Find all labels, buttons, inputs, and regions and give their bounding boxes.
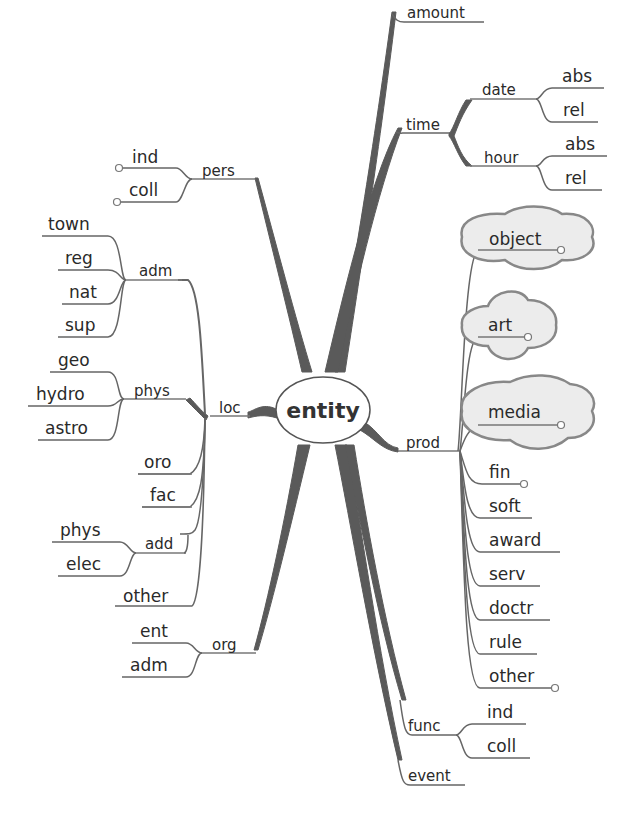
node-event[interactable]: event bbox=[398, 760, 465, 785]
label-pers-coll: coll bbox=[129, 180, 158, 200]
label-func-ind[interactable]: ind bbox=[487, 702, 513, 722]
label-time-hour: hour bbox=[484, 149, 519, 167]
label-loc-other[interactable]: other bbox=[123, 586, 168, 606]
label-prod-art: art bbox=[488, 315, 512, 335]
label-prod-soft[interactable]: soft bbox=[489, 496, 521, 516]
collapsed-indicator-icon[interactable] bbox=[558, 422, 565, 429]
label-prod-object: object bbox=[489, 229, 542, 249]
node-loc-adm[interactable]: adm bbox=[42, 236, 182, 337]
label-date-rel[interactable]: rel bbox=[563, 100, 585, 120]
label-add-elec[interactable]: elec bbox=[66, 554, 101, 574]
node-loc[interactable]: loc bbox=[115, 280, 250, 606]
label-event: event bbox=[408, 767, 451, 785]
label-func: func bbox=[408, 717, 441, 735]
label-loc-phys: phys bbox=[134, 382, 170, 400]
label-prod-award[interactable]: award bbox=[489, 530, 541, 550]
label-hour-abs[interactable]: abs bbox=[565, 134, 595, 154]
label-prod-fin: fin bbox=[489, 462, 510, 482]
label-pers: pers bbox=[202, 162, 235, 180]
label-date-abs[interactable]: abs bbox=[562, 66, 592, 86]
label-prod-serv[interactable]: serv bbox=[489, 564, 525, 584]
label-pers-ind: ind bbox=[132, 147, 158, 167]
root-node[interactable]: entity bbox=[276, 377, 370, 443]
label-org-ent[interactable]: ent bbox=[140, 621, 168, 641]
label-prod-media: media bbox=[488, 402, 541, 422]
label-loc-adm: adm bbox=[139, 262, 172, 280]
label-org-adm[interactable]: adm bbox=[130, 655, 168, 675]
collapsed-indicator-icon[interactable] bbox=[558, 247, 565, 254]
label-time: time bbox=[406, 116, 440, 134]
node-prod-object[interactable]: object bbox=[462, 207, 594, 270]
collapsed-indicator-icon[interactable] bbox=[552, 685, 559, 692]
label-adm-sup[interactable]: sup bbox=[65, 315, 95, 335]
node-prod-media[interactable]: media bbox=[462, 375, 594, 448]
node-amount[interactable]: amount bbox=[392, 4, 484, 22]
label-add-phys[interactable]: phys bbox=[60, 520, 101, 540]
collapsed-indicator-icon[interactable] bbox=[114, 199, 121, 206]
label-amount: amount bbox=[407, 4, 465, 22]
label-phys-astro[interactable]: astro bbox=[45, 418, 88, 438]
root-label: entity bbox=[286, 398, 360, 423]
collapsed-indicator-icon[interactable] bbox=[525, 334, 532, 341]
label-adm-reg[interactable]: reg bbox=[65, 248, 93, 268]
label-loc: loc bbox=[219, 399, 241, 417]
label-prod-other: other bbox=[489, 666, 534, 686]
label-phys-hydro[interactable]: hydro bbox=[36, 384, 85, 404]
node-prod-art[interactable]: art bbox=[462, 291, 556, 359]
label-prod: prod bbox=[406, 434, 440, 452]
label-hour-rel[interactable]: rel bbox=[565, 168, 587, 188]
collapsed-indicator-icon[interactable] bbox=[521, 481, 528, 488]
label-loc-fac[interactable]: fac bbox=[150, 485, 176, 505]
label-time-date: date bbox=[482, 81, 516, 99]
label-func-coll[interactable]: coll bbox=[487, 736, 516, 756]
label-loc-add: add bbox=[145, 535, 173, 553]
collapsed-indicator-icon[interactable] bbox=[116, 165, 123, 172]
label-phys-geo[interactable]: geo bbox=[58, 350, 90, 370]
label-adm-nat[interactable]: nat bbox=[69, 282, 97, 302]
entity-mind-map: entity pers ind coll loc adm town reg n bbox=[0, 0, 626, 826]
node-time[interactable]: time bbox=[396, 100, 472, 166]
label-org: org bbox=[212, 636, 237, 654]
label-prod-rule[interactable]: rule bbox=[489, 632, 522, 652]
label-loc-oro[interactable]: oro bbox=[144, 452, 171, 472]
label-adm-town[interactable]: town bbox=[48, 214, 90, 234]
label-prod-doctr[interactable]: doctr bbox=[489, 598, 533, 618]
